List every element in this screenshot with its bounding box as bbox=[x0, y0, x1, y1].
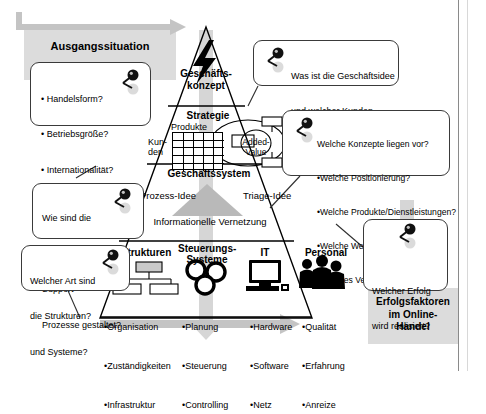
callout-line: •Welche Produkte/Dienstleistungen? bbox=[317, 207, 456, 218]
strategy-axis-left-line1: Kun- bbox=[148, 137, 167, 147]
list-item: •Infrastruktur bbox=[104, 399, 171, 412]
business-system-right-label: Triage-Idee bbox=[243, 190, 291, 201]
magnifier-pin-icon bbox=[113, 69, 141, 95]
list-item: •Zuständigkeiten bbox=[104, 360, 171, 373]
callout-strukturen[interactable]: Welcher Art sind die Strukturen? und Sys… bbox=[21, 245, 130, 291]
callout-line: Wie sind die bbox=[42, 213, 121, 225]
callout-line: wird realisiert? bbox=[372, 321, 431, 333]
base-items-it: •Hardware •Software •Netz bbox=[250, 295, 292, 414]
magnifier-pin-icon bbox=[93, 249, 121, 275]
business-system-left-label: Prozess-Idee bbox=[140, 190, 196, 201]
list-item: •Erfahrung bbox=[302, 360, 345, 373]
level-label-strategie: Strategie bbox=[168, 110, 248, 121]
level-label-geschaeftskonzept-line2: konzept bbox=[166, 80, 246, 91]
callout-line: und Systeme? bbox=[30, 347, 95, 359]
callout-prozesse[interactable]: Wie sind die Kern- und Support- Prozesse… bbox=[32, 183, 144, 239]
base-items-personal: •Qualität •Erfahrung •Anreize bbox=[302, 295, 345, 414]
list-item: •Hardware bbox=[250, 321, 292, 334]
panel-ausgangssituation-label: Ausgangssituation bbox=[24, 40, 176, 54]
callout-line: •Welche Positionierung? bbox=[317, 173, 456, 184]
callout-line: die Strukturen? bbox=[30, 311, 95, 323]
list-item: •Netz bbox=[250, 399, 292, 412]
callout-geschaeftsidee[interactable]: Was ist die Geschäftsidee und welcher Ku… bbox=[253, 40, 399, 86]
callout-erfolg[interactable]: Welcher Erfolg wird realisiert? bbox=[363, 219, 448, 291]
callout-strukturen-text: Welcher Art sind die Strukturen? und Sys… bbox=[30, 252, 95, 383]
callout-line: Welche Konzepte liegen vor? bbox=[317, 139, 456, 150]
base-items-steuerungssysteme: •Planung •Steuerung •Controlling bbox=[182, 295, 228, 414]
strategy-axis-left-line2: den bbox=[148, 147, 163, 157]
computer-icon bbox=[246, 260, 289, 291]
callout-line: • Betriebsgröße? bbox=[41, 129, 113, 141]
base-heading-steuerungssysteme-line2: Systeme bbox=[178, 254, 236, 265]
top-inflow-arrow bbox=[16, 12, 186, 35]
list-item: •Software bbox=[250, 360, 292, 373]
added-value-line2: Value bbox=[232, 147, 280, 157]
callout-line: Welcher Art sind bbox=[30, 276, 95, 288]
list-item: •Qualität bbox=[302, 321, 345, 334]
list-item: •Planung bbox=[182, 321, 228, 334]
strategy-axis-top-label: Produkte bbox=[171, 122, 207, 132]
base-heading-steuerungssysteme-line1: Steuerungs- bbox=[178, 243, 236, 254]
level-label-geschaeftskonzept-line1: Geschäfts- bbox=[166, 68, 246, 79]
strategy-matrix bbox=[172, 132, 223, 170]
callout-line: • Internationalität? bbox=[41, 165, 113, 177]
business-system-bottom-label: Informationelle Vernetzung bbox=[125, 216, 295, 227]
callout-line: Was ist die Geschäftsidee bbox=[291, 71, 395, 83]
list-item: •Controlling bbox=[182, 399, 228, 412]
callout-line: Welcher Erfolg bbox=[372, 286, 431, 298]
callout-konzepte[interactable]: Welche Konzepte liegen vor? •Welche Posi… bbox=[282, 110, 450, 176]
list-item: •Steuerung bbox=[182, 360, 228, 373]
callout-ausgangssituation[interactable]: • Handelsform? • Betriebsgröße? • Intern… bbox=[30, 62, 151, 126]
list-item: •Anreize bbox=[302, 399, 345, 412]
magnifier-pin-icon bbox=[287, 117, 315, 143]
callout-line: • Handelsform? bbox=[41, 94, 113, 106]
added-value-line1: Added- bbox=[232, 137, 280, 147]
magnifier-pin-icon bbox=[258, 47, 286, 73]
callout-erfolg-text: Welcher Erfolg wird realisiert? bbox=[372, 262, 431, 357]
magnifier-pin-icon bbox=[390, 223, 418, 249]
base-heading-it: IT bbox=[245, 247, 285, 258]
